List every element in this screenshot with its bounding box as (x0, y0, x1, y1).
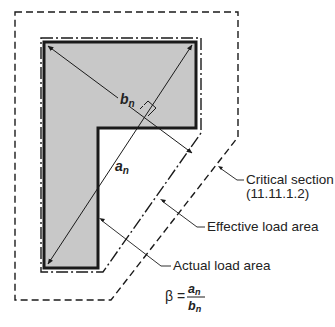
effective-load-area-leader (162, 201, 205, 227)
an-label: an (115, 158, 129, 176)
actual-load-area-label: Actual load area (173, 258, 271, 273)
formula-denominator: bn (188, 299, 202, 314)
beta-formula: β = an bn (165, 282, 205, 314)
formula-lhs: β = (165, 288, 185, 304)
critical-section-ref: (11.11.1.2) (246, 186, 309, 201)
critical-section-label: Critical section (246, 172, 334, 187)
effective-load-area-label: Effective load area (207, 219, 319, 234)
load-area-diagram: bn an Critical section (11.11.1.2) Effec… (0, 0, 335, 327)
critical-section-leader (220, 168, 244, 180)
formula-numerator: an (188, 282, 201, 297)
